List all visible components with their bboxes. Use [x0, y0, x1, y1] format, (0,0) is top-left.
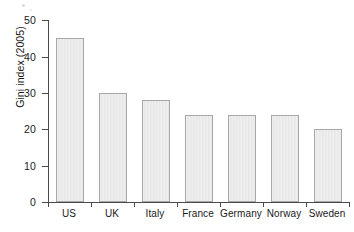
y-tick-label-30: 30 — [2, 88, 36, 98]
x-axis-line — [48, 202, 350, 203]
bar-france — [185, 115, 213, 202]
x-axis-label-sweden: Sweden — [296, 208, 354, 219]
y-tick-label-0: 0 — [2, 197, 36, 207]
y-tick-label-40: 40 — [2, 52, 36, 62]
scan-artifact-speck-secondary — [30, 9, 32, 11]
x-tick-mark-3 — [177, 202, 178, 207]
bars-layer — [48, 20, 350, 202]
x-tick-mark-7 — [349, 202, 350, 207]
x-tick-mark-6 — [306, 202, 307, 207]
bar-sweden — [314, 129, 342, 202]
y-tick-label-20: 20 — [2, 124, 36, 134]
bar-norway — [271, 115, 299, 202]
y-tick-label-10: 10 — [2, 161, 36, 171]
y-tick-label-50: 50 — [2, 15, 36, 25]
bar-germany — [228, 115, 256, 202]
bar-italy — [142, 100, 170, 202]
bar-uk — [99, 93, 127, 202]
x-tick-mark-1 — [91, 202, 92, 207]
bar-us — [56, 38, 84, 202]
x-tick-mark-2 — [134, 202, 135, 207]
x-tick-mark-5 — [263, 202, 264, 207]
x-tick-mark-4 — [220, 202, 221, 207]
gini-index-bar-chart: Gini index (2005) 0 10 20 30 40 50 US UK… — [0, 0, 354, 232]
x-tick-mark-0 — [48, 202, 49, 207]
